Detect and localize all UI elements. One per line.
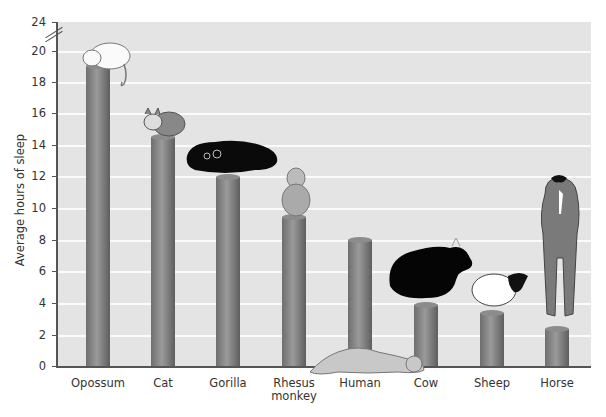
y-tick-label: 0 [20,360,46,372]
y-tick [52,51,57,52]
y-tick-label: 20 [20,45,46,57]
y-tick-label: 24 [20,16,46,28]
y-tick [52,208,57,209]
y-tick [52,271,57,272]
x-label-horse: Horse [517,377,597,390]
bar-horse [545,329,569,366]
gorilla-illustration [185,136,280,178]
y-axis [56,22,58,367]
y-tick-label: 4 [20,297,46,309]
y-tick [52,303,57,304]
y-tick-label: 6 [20,265,46,277]
y-tick-label: 16 [20,107,46,119]
gridline-16 [58,113,591,115]
rhesus-monkey-illustration [278,166,314,220]
gridline-12 [58,176,591,178]
y-tick [52,335,57,336]
y-tick [52,366,57,367]
cat-illustration [141,104,187,140]
y-tick [52,82,57,83]
bar-gorilla [216,177,240,366]
gridline-14 [58,145,591,147]
gridline-10 [58,208,591,210]
y-axis-label: Average hours of sleep [13,134,27,266]
cow-illustration [386,236,476,302]
y-tick [52,176,57,177]
sheep-illustration [470,266,532,308]
human-illustration [308,338,428,376]
x-label-rhesus-line2: monkey [254,390,334,403]
y-tick-label: 2 [20,329,46,341]
y-tick [52,240,57,241]
y-tick-label: 18 [20,76,46,88]
horse-illustration [535,174,585,322]
y-tick [52,113,57,114]
bar-sheep [480,313,504,366]
y-tick [52,145,57,146]
gridline-2 [58,335,591,337]
bar-opossum [86,66,110,366]
bar-cat [151,137,175,366]
bar-rhesus-monkey [282,217,306,366]
y-tick [52,22,57,23]
opossum-illustration [78,40,138,92]
gridline-8 [58,240,591,242]
